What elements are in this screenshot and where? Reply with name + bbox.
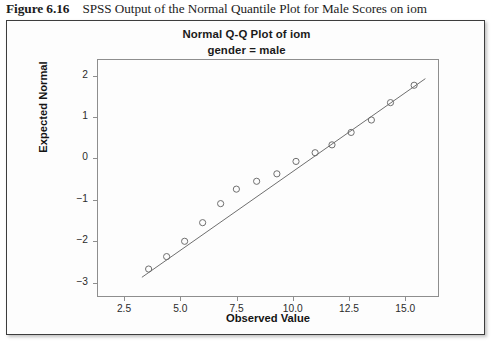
y-axis-title: Expected Normal <box>37 27 49 187</box>
x-tick-mark <box>293 297 294 301</box>
figure-caption-label: Figure 6.16 <box>6 1 69 16</box>
data-point <box>274 171 280 177</box>
data-point <box>146 266 152 272</box>
y-tick-label: −1 <box>62 193 88 204</box>
data-point <box>368 117 374 123</box>
data-point <box>312 150 318 156</box>
data-point <box>218 201 224 207</box>
x-tick-mark <box>124 297 125 301</box>
y-tick-mark <box>93 200 97 201</box>
x-tick-mark <box>349 297 350 301</box>
data-point <box>254 178 260 184</box>
spss-output-panel: Normal Q-Q Plot of iom gender = male Exp… <box>6 20 485 335</box>
y-tick-mark <box>93 117 97 118</box>
data-point <box>182 238 188 244</box>
reference-line <box>142 79 426 278</box>
data-point <box>200 220 206 226</box>
y-tick-mark <box>93 283 97 284</box>
x-tick-label: 2.5 <box>104 303 144 314</box>
y-tick-label: 1 <box>62 110 88 121</box>
data-point <box>233 186 239 192</box>
x-tick-label: 12.5 <box>329 303 369 314</box>
figure-caption-text: SPSS Output of the Normal Quantile Plot … <box>82 1 427 16</box>
data-point <box>293 158 299 164</box>
data-point <box>164 254 170 260</box>
x-tick-mark <box>237 297 238 301</box>
y-tick-label: −3 <box>62 276 88 287</box>
y-tick-label: 0 <box>62 151 88 162</box>
x-tick-mark <box>180 297 181 301</box>
y-tick-label: 2 <box>62 69 88 80</box>
y-tick-label: −2 <box>62 234 88 245</box>
x-tick-label: 10.0 <box>273 303 313 314</box>
x-tick-label: 5.0 <box>160 303 200 314</box>
chart-subtitle: gender = male <box>7 44 486 56</box>
y-tick-mark <box>93 76 97 77</box>
chart-title: Normal Q-Q Plot of iom <box>7 28 486 40</box>
plot-area <box>97 59 439 297</box>
y-tick-mark <box>93 158 97 159</box>
x-tick-label: 7.5 <box>217 303 257 314</box>
y-tick-mark <box>93 241 97 242</box>
figure-caption: Figure 6.16SPSS Output of the Normal Qua… <box>6 0 493 18</box>
x-tick-label: 15.0 <box>385 303 425 314</box>
x-tick-mark <box>405 297 406 301</box>
plot-canvas <box>98 60 440 298</box>
data-point <box>329 142 335 148</box>
